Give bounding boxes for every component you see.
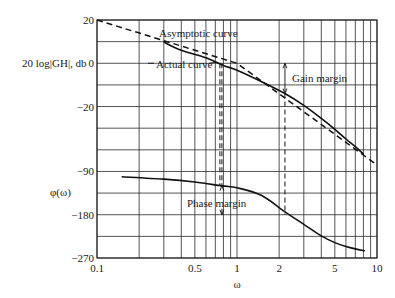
phase-tick-label: −90: [77, 165, 95, 177]
tick-labels: 0.10.512510200−20−90−180−270: [71, 14, 383, 274]
x-tick-label: 1: [234, 262, 240, 274]
gain-margin-label: Gain margin: [292, 72, 348, 84]
x-axis-label: ω: [233, 278, 240, 290]
x-tick-label: 5: [332, 262, 338, 274]
actual-curve-label: Actual curve: [156, 58, 213, 70]
magnitude-axis-label: 20 log|GH|, db: [22, 57, 87, 69]
phase-tick-label: −180: [71, 209, 94, 221]
magnitude-tick-label: 20: [83, 14, 95, 26]
x-tick-label: 2: [276, 262, 282, 274]
magnitude-tick-label: 0: [89, 57, 95, 69]
asymptotic-curve-label: Asymptotic curve: [159, 27, 238, 39]
phase-axis-label: φ(ω): [50, 186, 71, 199]
x-tick-label: 0.5: [188, 262, 202, 274]
magnitude-tick-label: −20: [77, 101, 95, 113]
phase-line: [122, 177, 365, 251]
vertical-gridlines: [97, 20, 377, 258]
phase-margin-label: Phase margin: [187, 197, 247, 209]
x-tick-label: 10: [372, 262, 384, 274]
phase-tick-label: −270: [71, 252, 94, 264]
bode-plot: 20 log|GH|, db φ(ω) ω 0.10.512510200−20−…: [0, 0, 395, 298]
